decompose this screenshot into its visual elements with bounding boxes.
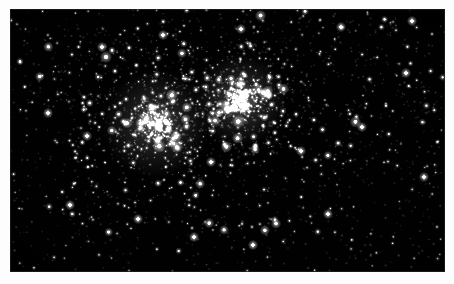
figure-root: Dense field of stars containing two adja… xyxy=(0,0,454,284)
star-field-canvas xyxy=(10,9,445,272)
sky-plate xyxy=(10,9,445,272)
